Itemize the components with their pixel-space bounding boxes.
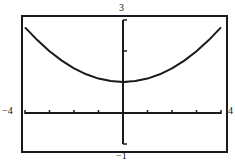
- plot-area: [0, 0, 235, 161]
- ymax-label: 3: [119, 3, 124, 13]
- xmin-label: −4: [2, 106, 13, 116]
- xmax-label: 4: [228, 106, 233, 116]
- ymin-label: −1: [116, 151, 127, 161]
